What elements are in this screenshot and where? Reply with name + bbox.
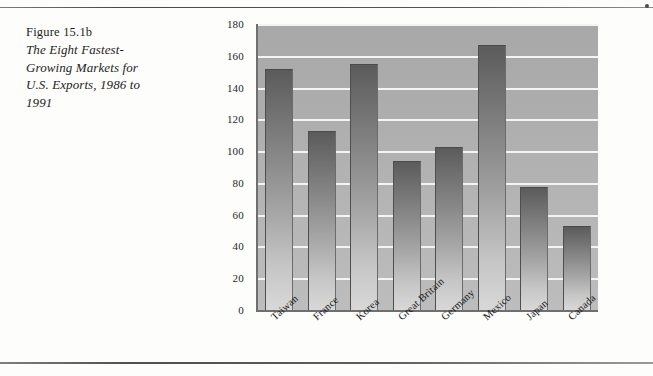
y-axis-tick: 0 (238, 304, 244, 316)
bar-chart: 180160140120100806040200 TaiwanFranceKor… (188, 14, 638, 359)
figure-title-line-3: U.S. Exports, 1986 to (26, 76, 206, 94)
y-axis-tick: 180 (227, 18, 244, 30)
bar-korea (350, 64, 378, 310)
bar-slot (386, 24, 429, 310)
bar-great-britain (393, 161, 421, 310)
bar-france (308, 131, 336, 310)
bar-series (258, 24, 598, 310)
bar-japan (520, 187, 548, 310)
y-axis-tick: 20 (233, 272, 244, 284)
figure-title-line-1: The Eight Fastest- (26, 41, 206, 59)
figure-title-line-2: Growing Markets for (26, 59, 206, 77)
figure-number: Figure 15.1b (26, 24, 206, 41)
y-axis-tick: 100 (227, 145, 244, 157)
bar-slot (258, 24, 301, 310)
figure-title-line-4: 1991 (26, 94, 206, 112)
bar-slot (556, 24, 599, 310)
bar-slot (428, 24, 471, 310)
y-axis-tick: 80 (233, 177, 244, 189)
x-axis-labels: TaiwanFranceKoreaGreat BritainGermanyMex… (256, 314, 596, 374)
bar-slot (343, 24, 386, 310)
y-axis: 180160140120100806040200 (188, 24, 250, 310)
bar-mexico (478, 45, 506, 310)
y-axis-tick: 60 (233, 209, 244, 221)
bar-slot (513, 24, 556, 310)
y-axis-tick: 40 (233, 240, 244, 252)
bar-taiwan (265, 69, 293, 310)
plot-area (256, 24, 598, 312)
y-axis-tick: 120 (227, 113, 244, 125)
page-rule-bottom (0, 362, 653, 364)
bar-slot (471, 24, 514, 310)
page-corner-mark-icon (645, 4, 649, 8)
page-rule-top (0, 7, 653, 8)
y-axis-tick: 140 (227, 82, 244, 94)
bar-slot (301, 24, 344, 310)
y-axis-tick: 160 (227, 50, 244, 62)
figure-caption: Figure 15.1b The Eight Fastest- Growing … (26, 24, 206, 111)
